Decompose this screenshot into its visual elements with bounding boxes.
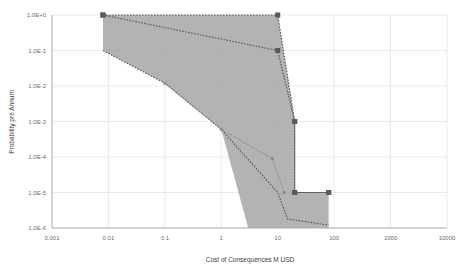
data-point-marker (275, 48, 280, 53)
data-point-marker (163, 82, 166, 85)
data-point-marker (100, 13, 105, 18)
y-tick-label: 1.0E-3 (28, 119, 46, 125)
x-axis-label: Cost of Consequences M USD (206, 256, 295, 264)
risk-chart: 0.0010.010.11101001000100001.0E+01.0E-11… (0, 0, 456, 272)
data-point-marker (292, 119, 297, 124)
y-axis-label: Probability pre Annum (8, 90, 16, 154)
x-tick-label: 0.1 (161, 235, 170, 241)
data-point-marker (275, 13, 280, 18)
y-tick-label: 1.0E-4 (28, 154, 46, 160)
data-point-marker (271, 157, 274, 160)
y-tick-label: 1.0E-5 (28, 190, 46, 196)
x-tick-label: 1000 (384, 235, 398, 241)
chart-canvas: 0.0010.010.11101001000100001.0E+01.0E-11… (0, 0, 456, 272)
data-point-marker (220, 128, 223, 131)
x-tick-label: 10000 (439, 235, 456, 241)
x-tick-label: 0.01 (103, 235, 115, 241)
y-tick-label: 1.0E-2 (28, 83, 46, 89)
x-tick-label: 10 (274, 235, 281, 241)
x-tick-label: 100 (329, 235, 340, 241)
y-tick-label: 1.0E+0 (27, 12, 47, 18)
data-point-marker (326, 190, 331, 195)
y-tick-label: 1.0E-1 (28, 48, 46, 54)
data-point-marker (283, 191, 286, 194)
data-point-marker (292, 190, 297, 195)
y-tick-label: 1.0E-6 (28, 225, 46, 231)
x-tick-label: 0.001 (44, 235, 60, 241)
